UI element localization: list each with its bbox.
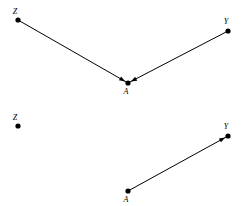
point-z-isolated (15, 123, 20, 128)
point-y-bottom (225, 133, 230, 138)
point-z-top (15, 17, 20, 22)
label-z-top: Z (13, 7, 18, 16)
point-a-bottom (125, 188, 130, 193)
label-a-top: A (123, 87, 129, 96)
label-a-bottom: A (123, 195, 129, 204)
point-a-top (125, 80, 130, 85)
vector-diagram-canvas: ZYAZAY (0, 0, 245, 206)
point-y-top (225, 28, 230, 33)
diagram-svg: ZYAZAY (0, 0, 245, 206)
label-z-isolated: Z (13, 113, 18, 122)
